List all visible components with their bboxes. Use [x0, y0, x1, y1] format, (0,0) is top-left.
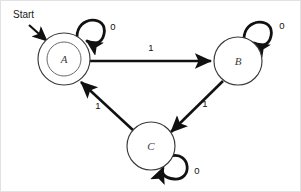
state-a-label: A: [60, 53, 68, 65]
start-arrow: [29, 25, 47, 41]
start-arrow-line: [29, 25, 47, 41]
edge-c-to-a: [81, 82, 134, 131]
state-machine-diagram: A B C 0 1 0 1 1 0 Start: [1, 1, 301, 192]
state-b-label: B: [235, 55, 242, 67]
edge-c-to-a-line: [81, 82, 134, 131]
state-c-label: C: [147, 140, 155, 152]
transition-label-b-self: 0: [279, 20, 284, 31]
transition-label-b-to-c: 1: [202, 98, 207, 109]
state-node-c[interactable]: C: [127, 122, 175, 170]
edge-b-to-c-line: [171, 81, 223, 132]
edge-b-to-c: [171, 81, 223, 132]
transition-label-a-self: 0: [110, 21, 115, 32]
transition-label-c-self: 0: [194, 165, 199, 176]
diagram-canvas: A B C 0 1 0 1 1 0 Start: [0, 0, 301, 192]
state-node-b[interactable]: B: [214, 37, 262, 85]
transition-label-a-to-b: 1: [148, 42, 153, 53]
state-node-a[interactable]: A: [38, 33, 90, 85]
transition-label-c-to-a: 1: [95, 100, 100, 111]
start-label: Start: [13, 9, 34, 20]
